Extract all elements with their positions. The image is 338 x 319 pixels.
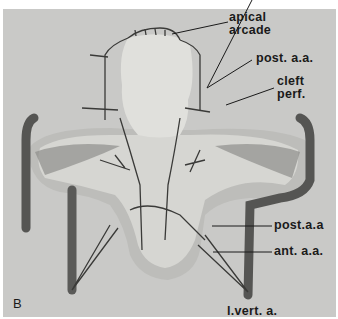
label-post-aa-bottom: post.a.a xyxy=(274,219,324,231)
label-cleft-perf-line2: perf. xyxy=(277,88,306,100)
panel-label: B xyxy=(13,298,22,310)
label-l-vert-a: l.vert. a. xyxy=(227,305,277,317)
left-vertebral-artery-upper xyxy=(26,118,34,228)
label-apical-arcade-line2: arcade xyxy=(229,24,271,36)
label-cleft-perf-line1: cleft xyxy=(277,75,304,87)
anatomical-illustration xyxy=(0,0,338,319)
dens xyxy=(121,34,193,137)
label-ant-aa: ant. a.a. xyxy=(274,245,323,257)
label-post-aa-top: post. a.a. xyxy=(256,52,313,64)
label-apical-arcade-line1: apical xyxy=(229,11,266,23)
